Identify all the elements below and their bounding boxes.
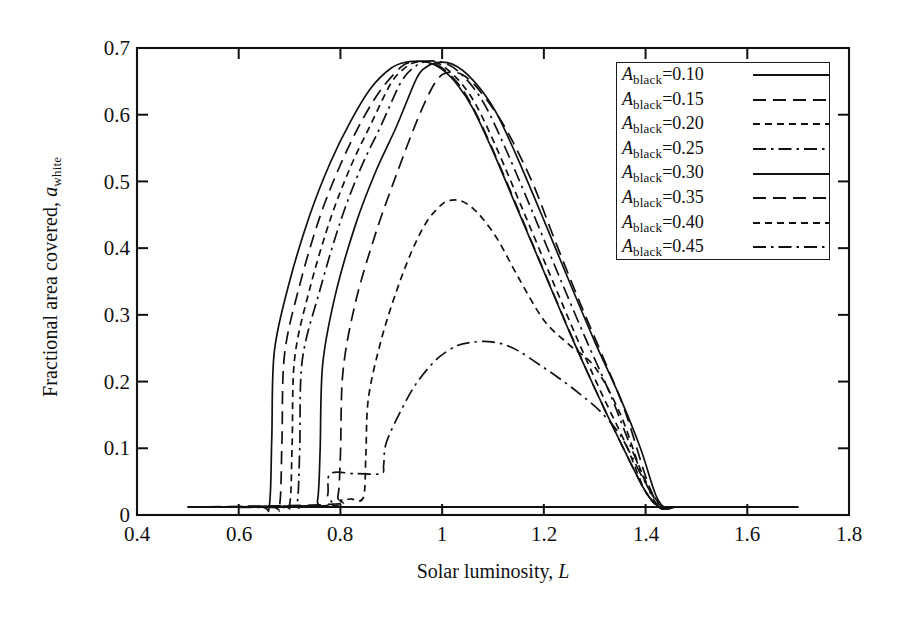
legend-item-label: Ablack=0.10 (622, 65, 704, 86)
legend-value: =0.20 (662, 113, 704, 133)
figure-root: Fractional area covered, awhite 0.7 0.6 … (0, 0, 897, 627)
legend-value: =0.25 (662, 138, 704, 158)
legend-item: Ablack=0.10 (617, 63, 829, 88)
legend-box: Ablack=0.10 Ablack=0.15 Ablack=0.20 Abla… (616, 62, 830, 260)
legend-subscript: black (633, 219, 662, 234)
legend-subscript: black (633, 145, 662, 160)
legend-item: Ablack=0.40 (617, 211, 829, 236)
legend-symbol: A (622, 64, 633, 84)
legend-line-sample (753, 69, 829, 81)
legend-symbol: A (622, 187, 633, 207)
legend-symbol: A (622, 113, 633, 133)
legend-line-sample (753, 143, 829, 155)
legend-item-label: Ablack=0.30 (622, 163, 704, 184)
legend-item: Ablack=0.45 (617, 235, 829, 260)
legend-item: Ablack=0.25 (617, 137, 829, 162)
legend-symbol: A (622, 89, 633, 109)
legend-item-label: Ablack=0.45 (622, 237, 704, 258)
legend-value: =0.10 (662, 64, 704, 84)
legend-value: =0.45 (662, 236, 704, 256)
legend-symbol: A (622, 162, 633, 182)
legend-line-sample (753, 168, 829, 180)
legend-symbol: A (622, 138, 633, 158)
legend-subscript: black (633, 72, 662, 87)
legend-value: =0.15 (662, 89, 704, 109)
legend-item-label: Ablack=0.25 (622, 139, 704, 160)
legend-item: Ablack=0.15 (617, 88, 829, 113)
legend-item-label: Ablack=0.35 (622, 188, 704, 209)
legend-subscript: black (633, 170, 662, 185)
legend-line-sample (753, 192, 829, 204)
legend-subscript: black (633, 121, 662, 136)
legend-subscript: black (633, 195, 662, 210)
legend-line-sample (753, 94, 829, 106)
legend-line-sample (753, 241, 829, 253)
curve-A-black-0-45 (188, 341, 798, 508)
legend-value: =0.30 (662, 162, 704, 182)
legend-item: Ablack=0.35 (617, 186, 829, 211)
legend-value: =0.40 (662, 212, 704, 232)
legend-item: Ablack=0.30 (617, 161, 829, 186)
legend-value: =0.35 (662, 187, 704, 207)
legend-line-sample (753, 217, 829, 229)
legend-subscript: black (633, 96, 662, 111)
legend-subscript: black (633, 244, 662, 259)
legend-item: Ablack=0.20 (617, 112, 829, 137)
legend-line-sample (753, 118, 829, 130)
legend-symbol: A (622, 212, 633, 232)
legend-item-label: Ablack=0.15 (622, 90, 704, 111)
legend-item-label: Ablack=0.20 (622, 114, 704, 135)
legend-symbol: A (622, 236, 633, 256)
legend-item-label: Ablack=0.40 (622, 213, 704, 234)
